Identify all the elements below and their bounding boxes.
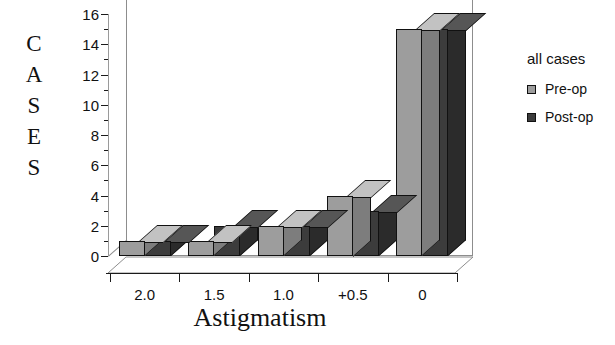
y-tick-mark-minor: [104, 90, 108, 91]
x-tick-label: 1.5: [204, 286, 225, 303]
y-tick-label: 8: [91, 127, 99, 144]
legend-swatch-preop-icon: [527, 85, 536, 94]
y-axis-line: [108, 14, 109, 256]
legend-item-preop: Pre-op: [527, 81, 593, 97]
y-axis-title-letter: A: [10, 59, 58, 90]
x-tick-label: +0.5: [338, 286, 368, 303]
bar-front-face: [327, 196, 353, 257]
y-tick-label: 4: [91, 187, 99, 204]
y-tick-label: 10: [82, 96, 99, 113]
bar-pre-op-1.5: [188, 241, 214, 256]
y-tick-mark-minor: [104, 59, 108, 60]
y-tick-label: 2: [91, 217, 99, 234]
bar-side-face: [422, 13, 440, 256]
y-tick-mark: [101, 75, 108, 76]
y-tick-mark: [101, 135, 108, 136]
x-tick-mark: [388, 273, 389, 282]
x-tick-mark: [110, 273, 111, 282]
y-tick-mark-minor: [104, 241, 108, 242]
y-tick-label: 12: [82, 66, 99, 83]
x-tick-mark: [179, 273, 180, 282]
y-tick-label: 6: [91, 157, 99, 174]
y-axis-title-letter: C: [10, 28, 58, 59]
bar-side-face: [448, 13, 466, 256]
x-tick-mark: [249, 273, 250, 282]
y-tick-mark-minor: [104, 180, 108, 181]
y-tick-mark-minor: [104, 211, 108, 212]
x-tick-mark: [318, 273, 319, 282]
y-tick-mark-minor: [104, 120, 108, 121]
legend-label-preop: Pre-op: [545, 81, 587, 97]
y-tick-mark: [101, 165, 108, 166]
y-tick-mark: [101, 196, 108, 197]
bar-pre-op-0: [396, 29, 422, 256]
bar-front-face: [396, 29, 422, 256]
bar-front-face: [119, 241, 145, 256]
legend-label-postop: Post-op: [545, 109, 593, 125]
x-tick-label: 0: [418, 286, 426, 303]
y-tick-mark: [101, 44, 108, 45]
y-axis-title-letter: S: [10, 152, 58, 183]
legend: all cases Pre-op Post-op: [527, 50, 593, 137]
bar-front-face: [258, 226, 284, 256]
x-axis-line: [106, 273, 458, 274]
legend-item-postop: Post-op: [527, 109, 593, 125]
legend-swatch-postop-icon: [527, 113, 536, 122]
y-tick-label: 16: [82, 6, 99, 23]
plot-area: 0246810121416 2.01.51.0+0.50: [108, 14, 455, 272]
y-tick-label: 0: [91, 248, 99, 265]
y-axis-title-letter: S: [10, 90, 58, 121]
bar-pre-op-1.0: [258, 226, 284, 256]
x-tick-mark: [457, 273, 458, 282]
y-tick-label: 14: [82, 36, 99, 53]
y-tick-mark: [101, 105, 108, 106]
legend-title: all cases: [527, 50, 593, 67]
bar-chart-figure: C A S E S 0246810121416 2.01.51.0+0.50 A…: [0, 0, 615, 345]
bar-pre-op-2.0: [119, 241, 145, 256]
y-tick-mark: [101, 226, 108, 227]
x-tick-label: 2.0: [134, 286, 155, 303]
x-axis-title: Astigmatism: [0, 303, 520, 333]
bar-pre-op-+0.5: [327, 196, 353, 257]
y-tick-mark-minor: [104, 29, 108, 30]
y-axis-title: C A S E S: [10, 28, 58, 183]
y-tick-mark: [101, 256, 108, 257]
x-tick-label: 1.0: [273, 286, 294, 303]
y-tick-mark: [101, 14, 108, 15]
floor-plane: [108, 256, 473, 273]
bar-front-face: [188, 241, 214, 256]
y-axis-title-letter: E: [10, 121, 58, 152]
y-tick-mark-minor: [104, 150, 108, 151]
